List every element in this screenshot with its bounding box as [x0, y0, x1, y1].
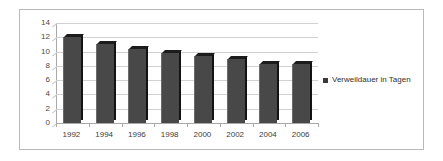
- bar-front-face: [128, 49, 146, 123]
- x-axis-tick-label: 2000: [193, 131, 211, 139]
- bar: [259, 64, 276, 123]
- bar: [194, 56, 211, 123]
- x-axis-tick-label: 1998: [161, 131, 179, 139]
- bar-top-face: [162, 50, 182, 53]
- y-axis-tick-label: 0: [46, 119, 50, 127]
- y-axis-tick-label: 4: [46, 90, 50, 98]
- bar: [128, 49, 145, 123]
- chart-legend: Verweildauer in Tagen: [323, 76, 411, 84]
- bar-front-face: [227, 59, 245, 123]
- x-axis-tick: [220, 123, 221, 127]
- x-axis-tick: [187, 123, 188, 127]
- x-axis-tick-label: 2006: [292, 131, 310, 139]
- x-axis-tick: [318, 123, 319, 127]
- plot-area: 02468101214: [56, 23, 318, 123]
- x-axis-tick: [122, 123, 123, 127]
- x-axis-tick-label: 1996: [128, 131, 146, 139]
- bar-front-face: [96, 44, 114, 123]
- bar-front-face: [161, 53, 179, 123]
- y-axis-tick-label: 2: [46, 105, 50, 113]
- bar-series: [56, 23, 318, 123]
- x-axis-tick-label: 1992: [62, 131, 80, 139]
- y-axis-tick-label: 8: [46, 62, 50, 70]
- y-axis-tick-label: 12: [41, 33, 50, 41]
- x-axis-tick-label: 2004: [259, 131, 277, 139]
- legend-swatch-icon: [323, 78, 328, 83]
- y-axis-tick-label: 10: [41, 48, 50, 56]
- bar-top-face: [195, 53, 215, 56]
- bar-top-face: [64, 34, 84, 37]
- bar-front-face: [292, 64, 310, 123]
- y-axis-tick-label: 6: [46, 76, 50, 84]
- bar-top-face: [260, 61, 280, 64]
- bar-top-face: [97, 41, 117, 44]
- bar-front-face: [259, 64, 277, 123]
- bar: [227, 59, 244, 123]
- x-axis-tick-label: 1994: [95, 131, 113, 139]
- bar: [161, 53, 178, 123]
- bar: [292, 64, 309, 123]
- bar-front-face: [63, 37, 81, 123]
- bar: [96, 44, 113, 123]
- bar: [63, 37, 80, 123]
- y-axis-tick-label: 14: [41, 19, 50, 27]
- x-axis-tick-label: 2002: [226, 131, 244, 139]
- bar-front-face: [194, 56, 212, 123]
- x-axis-tick: [89, 123, 90, 127]
- x-axis-tick: [56, 123, 57, 127]
- x-axis-tick: [285, 123, 286, 127]
- bar-top-face: [228, 56, 248, 59]
- x-axis-tick: [154, 123, 155, 127]
- x-axis: 19921994199619982000200220042006: [56, 123, 318, 145]
- bar-top-face: [129, 46, 149, 49]
- x-axis-tick: [253, 123, 254, 127]
- legend-entry-label: Verweildauer in Tagen: [332, 76, 411, 84]
- chart-frame: 02468101214 1992199419961998200020022004…: [19, 9, 424, 150]
